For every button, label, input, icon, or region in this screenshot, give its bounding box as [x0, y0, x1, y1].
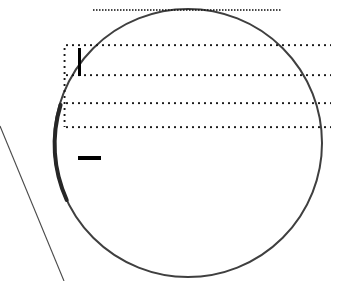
dotted-rule-2 — [64, 74, 331, 76]
vertical-bar-mark — [78, 48, 81, 76]
top-dotted-chord — [93, 9, 281, 11]
figure-background — [0, 0, 341, 281]
dotted-rule-1 — [64, 44, 331, 46]
figure-container: Circle with dotted guide lines and tick … — [0, 0, 341, 281]
dotted-left-edge — [64, 45, 66, 127]
figure-canvas — [0, 0, 341, 281]
horizontal-dash-mark — [78, 156, 101, 160]
dotted-rule-3 — [64, 102, 331, 104]
dotted-rule-4 — [64, 126, 331, 128]
